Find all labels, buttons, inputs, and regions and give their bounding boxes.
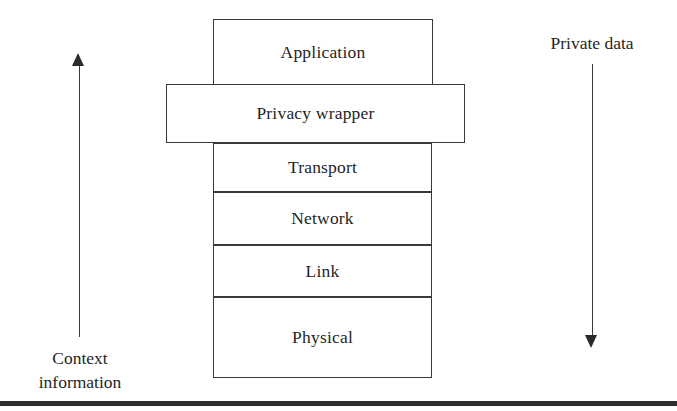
layer-label-link: Link <box>306 261 340 282</box>
layer-box-link: Link <box>213 245 432 297</box>
layer-label-application: Application <box>281 42 366 63</box>
bottom-rule-divider <box>0 401 677 406</box>
layer-label-transport: Transport <box>288 157 357 178</box>
context-caption-line-1: Context <box>0 346 160 370</box>
layer-box-privacy-wrapper: Privacy wrapper <box>166 84 465 143</box>
context-caption-line-2: information <box>0 370 160 394</box>
layer-box-network: Network <box>213 192 432 245</box>
private-data-arrow-line <box>592 64 593 336</box>
arrow-down-icon <box>585 335 597 348</box>
context-information-arrow-line <box>79 66 80 337</box>
context-information-caption: Context information <box>0 346 160 394</box>
layer-label-network: Network <box>291 208 354 229</box>
layer-box-transport: Transport <box>213 143 432 192</box>
private-data-caption: Private data <box>512 31 672 55</box>
protocol-stack-figure: Application Transport Network Link Physi… <box>0 0 677 411</box>
layer-label-physical: Physical <box>292 327 353 348</box>
arrow-up-icon <box>72 53 84 66</box>
layer-label-privacy-wrapper: Privacy wrapper <box>256 103 374 124</box>
layer-box-physical: Physical <box>213 297 432 378</box>
layer-box-application: Application <box>213 19 433 85</box>
